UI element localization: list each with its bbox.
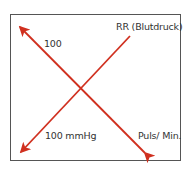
label-100: 100 [44, 38, 62, 49]
label-puls-min: Puls/ Min. [138, 130, 181, 141]
label-100-mmhg: 100 mmHg [45, 130, 96, 141]
label-rr-blutdruck: RR (Blutdruck) [116, 21, 182, 32]
